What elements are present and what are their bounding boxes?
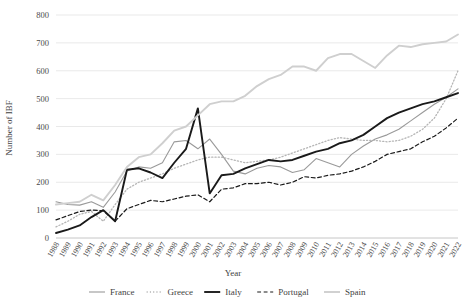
series-line-spain xyxy=(56,35,458,205)
chart-canvas: 0100200300400500600700800 19881989199019… xyxy=(0,0,469,307)
y-tick-label: 500 xyxy=(36,94,49,104)
series-line-portugal xyxy=(56,118,458,221)
y-tick-label: 400 xyxy=(36,122,49,132)
x-tick-label: 2022 xyxy=(447,241,463,259)
series-line-greece xyxy=(56,71,458,227)
legend-label-portugal: Portugal xyxy=(278,287,309,297)
series-line-france xyxy=(56,89,458,207)
y-tick-label: 300 xyxy=(36,149,49,159)
x-axis-title: Year xyxy=(225,268,242,278)
y-tick-label: 700 xyxy=(36,38,49,48)
y-tick-label: 600 xyxy=(36,66,49,76)
y-tick-label: 100 xyxy=(36,205,49,215)
legend-label-greece: Greece xyxy=(168,287,193,297)
y-tick-label: 0 xyxy=(45,233,49,243)
legend-label-spain: Spain xyxy=(345,287,366,297)
data-series-group xyxy=(56,35,458,233)
y-axis-title: Number of IBF xyxy=(4,100,14,156)
legend: FranceGreeceItalyPortugalSpain xyxy=(89,287,366,297)
series-line-italy xyxy=(56,93,458,233)
x-axis-tick-labels: 1988198919901991199219931994199519961997… xyxy=(45,241,463,259)
y-axis-tick-labels: 0100200300400500600700800 xyxy=(36,10,49,243)
line-chart: 0100200300400500600700800 19881989199019… xyxy=(0,0,469,307)
gridlines-group xyxy=(56,15,458,238)
y-tick-label: 200 xyxy=(36,177,49,187)
legend-label-france: France xyxy=(110,287,135,297)
y-tick-label: 800 xyxy=(36,10,49,20)
legend-label-italy: Italy xyxy=(225,287,242,297)
